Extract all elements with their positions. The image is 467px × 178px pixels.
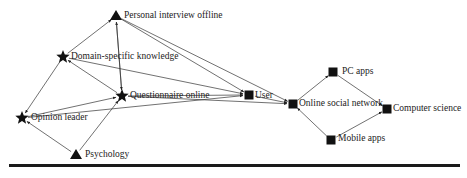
label-mobile-apps: Mobile apps	[338, 134, 385, 144]
label-computer-science: Computer science	[393, 104, 461, 114]
square-icon	[289, 100, 298, 109]
label-psychology: Psychology	[85, 150, 129, 160]
bottom-rule	[9, 164, 460, 167]
label-opinion-leader: Opinion leader	[31, 113, 88, 123]
edge-mobile_apps-to-online_social_network	[297, 108, 326, 136]
edge-domain_specific_knowledge-to-personal_interview_offline	[68, 20, 112, 54]
triangle-icon	[110, 10, 122, 20]
square-icon	[245, 91, 254, 100]
edge-psychology-to-opinion_leader	[27, 121, 71, 151]
nodes-layer	[15, 10, 391, 159]
star-icon	[115, 89, 128, 102]
label-domain-specific-knowledge: Domain-specific knowledge	[71, 52, 178, 62]
label-pc-apps: PC apps	[342, 67, 373, 77]
label-questionnaire-online: Questionnaire online	[130, 91, 209, 101]
edge-psychology-to-questionnaire_online	[80, 101, 119, 151]
label-user: User	[255, 91, 273, 101]
network-diagram	[0, 0, 467, 178]
square-icon	[327, 136, 336, 145]
square-icon	[329, 68, 338, 77]
square-icon	[383, 105, 392, 114]
triangle-icon	[70, 149, 82, 159]
edge-domain_specific_knowledge-to-opinion_leader	[25, 62, 59, 113]
edges-layer	[25, 19, 382, 152]
edge-online_social_network-to-pc_apps	[298, 76, 329, 101]
label-personal-interview-offline: Personal interview offline	[124, 11, 223, 21]
label-online-social-network: Online social network	[299, 99, 383, 109]
star-icon	[15, 111, 28, 124]
edge-questionnaire_online-to-domain_specific_knowledge	[68, 60, 117, 92]
star-icon	[56, 50, 69, 63]
